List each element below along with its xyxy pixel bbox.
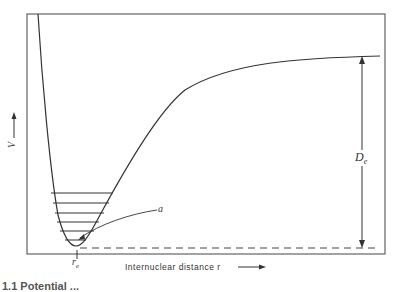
x-arrowhead-icon <box>259 265 266 270</box>
figure-caption-partial: 1.1 Potential ... <box>2 280 79 292</box>
x-axis-label: Internuclear distance r <box>125 262 221 272</box>
potential-energy-curve <box>38 14 380 246</box>
annotation-a-label: a <box>158 203 163 214</box>
y-arrowhead-icon <box>12 112 17 119</box>
de-main: D <box>355 150 364 164</box>
y-axis-label-text: V <box>6 142 17 148</box>
de-arrow-down-icon <box>359 240 365 248</box>
x-axis-label-text: Internuclear distance r <box>125 262 221 272</box>
dissociation-energy-label: De <box>354 150 368 166</box>
annotation-arrowhead <box>78 234 85 240</box>
y-axis-label: V <box>6 142 17 148</box>
annotation-leader <box>80 210 157 238</box>
de-subscript: e <box>364 157 368 166</box>
de-arrow-up-icon <box>359 56 365 64</box>
equilibrium-distance-label: re <box>72 256 79 270</box>
plot-frame <box>27 14 385 254</box>
vibrational-levels <box>51 193 113 240</box>
re-subscript: e <box>76 262 79 270</box>
